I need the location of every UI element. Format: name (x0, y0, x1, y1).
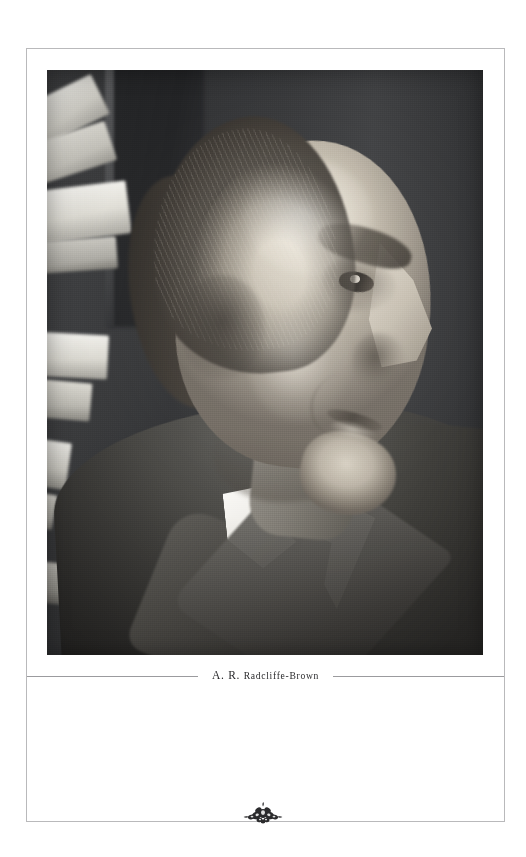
photo-vignette (47, 70, 483, 655)
caption-rule-left (27, 676, 198, 677)
portrait-photograph (47, 70, 483, 655)
plate-page: A. R. Radcliffe-Brown (0, 0, 526, 857)
photograph-image (47, 70, 483, 655)
caption-surname: Radcliffe-Brown (244, 670, 319, 681)
caption: A. R. Radcliffe-Brown (27, 665, 504, 687)
caption-text: A. R. Radcliffe-Brown (198, 670, 333, 682)
caption-rule-right (333, 676, 504, 677)
caption-initials: A. R. (212, 669, 244, 681)
frame-bottom-rule (26, 821, 505, 822)
